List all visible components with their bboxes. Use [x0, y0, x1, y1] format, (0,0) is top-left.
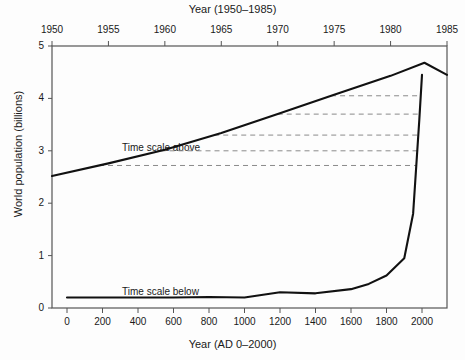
axes-frame — [48, 41, 447, 313]
population-chart-figure: Year (1950–1985) Year (AD 0–2000) World … — [0, 0, 465, 360]
plot-area — [0, 0, 465, 360]
data-series-lines — [52, 63, 447, 298]
